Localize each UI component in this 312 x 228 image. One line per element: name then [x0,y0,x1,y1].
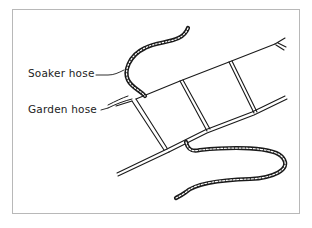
soaker-hose-top [127,28,188,96]
soaker-hose-bottom [176,142,285,198]
paving-stones [116,38,287,176]
illustration-canvas: Soaker hose Garden hose [0,0,312,228]
garden-hose-label: Garden hose [28,103,97,115]
soaker-hose-label: Soaker hose [28,67,95,79]
